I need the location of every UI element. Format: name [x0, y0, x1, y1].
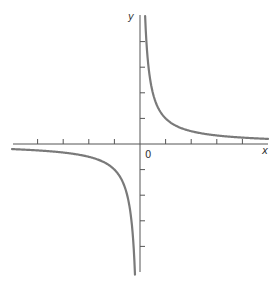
- curve-branch-positive: [145, 16, 268, 139]
- axes: [13, 15, 268, 272]
- origin-label: 0: [145, 149, 151, 160]
- chart-canvas: y x 0: [0, 0, 276, 284]
- y-axis-label: y: [127, 11, 135, 22]
- x-axis-label: x: [261, 145, 268, 156]
- curve-branch-negative: [12, 149, 135, 274]
